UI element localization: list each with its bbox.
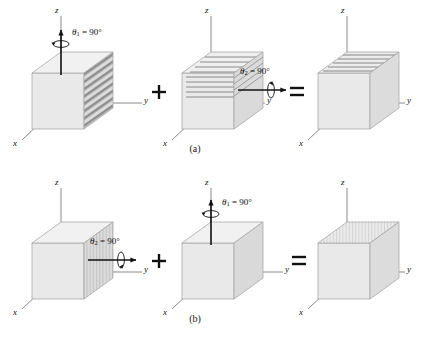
axis-label-z-a3: z (341, 5, 345, 15)
operator-plus-a (152, 85, 166, 99)
cube-a3 (318, 52, 399, 129)
axis-label-y-b1: y (144, 264, 148, 274)
axis-label-z-a1: z (55, 5, 59, 15)
cube-a3-front (318, 73, 370, 129)
rotation-label-a1: θ1 = 90° (72, 27, 102, 37)
axis-label-y-a1: y (144, 95, 148, 105)
axis-label-x-a1: x (13, 138, 17, 148)
rotation-label-b2: θ1 = 90° (222, 197, 252, 207)
axis-label-y-a2: y (267, 95, 271, 105)
axis-label-y-b3: y (407, 264, 411, 274)
cube-b2-front (182, 243, 234, 299)
cube-a1-front (32, 73, 84, 129)
panel-b-1 (22, 188, 142, 309)
axis-label-x-a2: x (163, 138, 167, 148)
axis-label-y-a3: y (407, 95, 411, 105)
axis-label-x-b2: x (163, 307, 167, 317)
rotation-label-a2: θ2 = 90° (240, 66, 270, 76)
panel-a-3 (308, 16, 405, 140)
operator-equals-a (290, 88, 304, 95)
caption-a: (a) (175, 143, 215, 154)
axis-label-y-b2: y (285, 264, 289, 274)
operator-equals-b (292, 257, 306, 264)
cube-a1 (32, 52, 113, 129)
cube-b2 (182, 222, 263, 299)
cube-b1-front (32, 243, 84, 299)
axis-label-z-a2: z (205, 5, 209, 15)
rotation-figure (0, 0, 425, 341)
caption-b: (b) (175, 313, 215, 324)
operator-plus-b (152, 254, 166, 268)
rotation-label-b1: θ2 = 90° (90, 236, 120, 246)
axis-label-z-b1: z (55, 177, 59, 187)
cube-a2-front (182, 73, 234, 129)
cube-b3-front (318, 243, 370, 299)
axis-label-x-b3: x (299, 307, 303, 317)
axis-label-x-b1: x (13, 307, 17, 317)
panel-b-3 (308, 188, 405, 309)
cube-b3 (318, 222, 399, 299)
panel-a-2 (172, 16, 286, 140)
axis-label-z-b2: z (205, 177, 209, 187)
axis-label-x-a3: x (299, 138, 303, 148)
axis-label-z-b3: z (341, 177, 345, 187)
